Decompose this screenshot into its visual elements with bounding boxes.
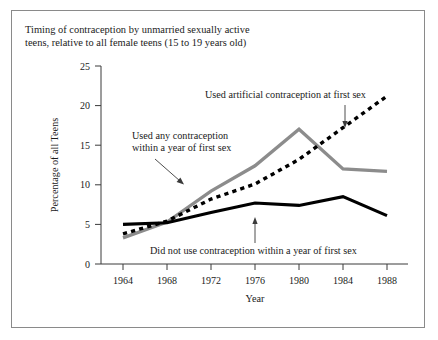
annotation-any-label-line2: within a year of first sex [132, 142, 231, 153]
x-tick-label-1968: 1968 [157, 275, 177, 286]
x-tick-label-1988: 1988 [377, 275, 397, 286]
annotation-artificial-label: Used artificial contraception at first s… [205, 89, 366, 100]
x-axis-title: Year [246, 293, 265, 304]
x-tick-label-1980: 1980 [289, 275, 309, 286]
x-tick-label-1984: 1984 [333, 275, 353, 286]
annotation-none-arrowhead [252, 217, 257, 224]
annotation-any-leader [155, 159, 180, 181]
y-tick-label-10: 10 [80, 179, 90, 190]
x-tick-label-1964: 1964 [113, 275, 133, 286]
annotation-any-label-line1: Used any contraception [132, 130, 228, 141]
y-tick-label-0: 0 [85, 259, 90, 270]
y-axis-title: Percentage of all Teens [49, 118, 60, 212]
y-tick-label-5: 5 [85, 219, 90, 230]
y-tick-label-20: 20 [80, 100, 90, 111]
x-tick-label-1976: 1976 [245, 275, 265, 286]
y-tick-label-25: 25 [80, 61, 90, 72]
y-tick-label-15: 15 [80, 140, 90, 151]
x-tick-label-1972: 1972 [201, 275, 221, 286]
annotation-none-label: Did not use contraception within a year … [150, 245, 357, 256]
chart-figure-frame: Timing of contraception by unmarried sex… [11, 10, 425, 328]
chart-plot-area: 25 20 15 10 5 0 Percentage of all Teens … [12, 11, 426, 329]
